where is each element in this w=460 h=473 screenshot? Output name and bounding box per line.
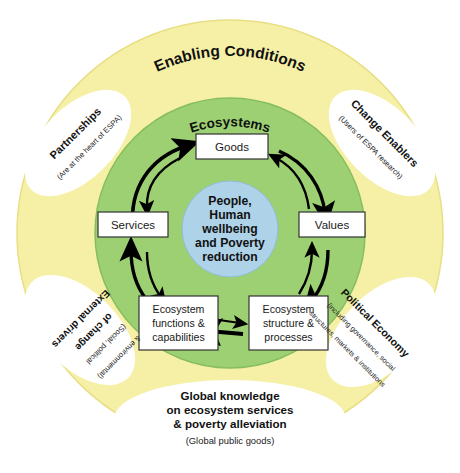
diagram-canvas: Enabling Conditions Ecosystems — [0, 0, 460, 473]
bottom-banner-line-2: on ecosystem services — [167, 403, 294, 416]
cycle-box-ecosystem-functions-line-1: Ecosystem — [153, 303, 205, 315]
cycle-box-ecosystem-structure-line-2: structure & — [263, 317, 314, 329]
cycle-box-services-label: Services — [111, 219, 155, 231]
cycle-box-ecosystem-functions[interactable]: Ecosystem functions & capabilities — [139, 296, 218, 350]
cycle-box-values-label: Values — [315, 219, 350, 231]
bottom-banner-line-3: & poverty alleviation — [173, 417, 286, 430]
cycle-box-ecosystem-functions-line-3: capabilities — [152, 331, 204, 343]
center-line-2: Human — [209, 208, 250, 222]
center-line-4: and Poverty — [195, 236, 265, 250]
cycle-box-ecosystem-structure-line-1: Ecosystem — [263, 303, 315, 315]
center-line-1: People, — [208, 194, 251, 208]
cycle-box-ecosystem-functions-line-2: functions & — [152, 317, 204, 329]
cycle-box-goods-label: Goods — [215, 141, 249, 153]
cycle-box-services[interactable]: Services — [98, 212, 168, 237]
cycle-box-goods[interactable]: Goods — [196, 134, 268, 159]
bottom-banner-line-1: Global knowledge — [180, 389, 280, 402]
center-line-5: reduction — [202, 250, 258, 264]
cycle-box-values[interactable]: Values — [299, 212, 365, 237]
espa-framework-diagram: Enabling Conditions Ecosystems — [0, 0, 460, 473]
bottom-banner-subtitle: (Global public goods) — [186, 435, 275, 446]
cycle-box-ecosystem-structure-line-3: processes — [264, 331, 312, 343]
center-line-3: wellbeing — [201, 222, 258, 236]
